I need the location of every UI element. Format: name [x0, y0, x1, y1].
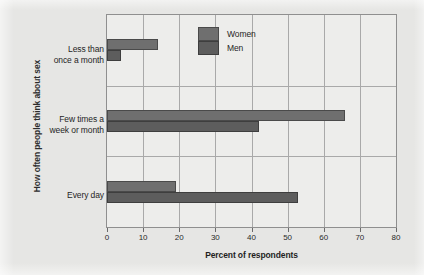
- bar-men-few-times-a-week-or-month: [107, 121, 259, 132]
- chart-figure: How often people think about sex Less th…: [0, 0, 424, 275]
- category-label-less-than-once-a-month: Less than once a month: [14, 44, 104, 65]
- legend-swatch-men-icon: [198, 41, 219, 55]
- category-label-line: once a month: [14, 55, 104, 66]
- bar-women-few-times-a-week-or-month: [107, 110, 345, 121]
- gridline-vertical: [324, 15, 325, 227]
- x-axis-tick-label: 10: [131, 233, 155, 242]
- category-label-few-times-a-week-or-month: Few times a week or month: [14, 114, 104, 135]
- legend: Women Men: [198, 26, 284, 60]
- category-label-every-day: Every day: [14, 190, 104, 201]
- gridline-vertical: [360, 15, 361, 227]
- x-axis-tick: [143, 228, 144, 232]
- bar-men-less-than-once-a-month: [107, 50, 121, 61]
- bar-men-every-day: [107, 192, 298, 203]
- x-axis-tick: [396, 228, 397, 232]
- category-label-line: Less than: [14, 44, 104, 55]
- x-axis-title: Percent of respondents: [106, 250, 397, 260]
- gridline-group-separator: [107, 86, 396, 87]
- legend-swatch-women-icon: [198, 27, 219, 41]
- x-axis-tick: [107, 228, 108, 232]
- y-axis-category-labels: Less than once a month Few times a week …: [12, 14, 104, 228]
- x-axis-tick-label: 20: [167, 233, 191, 242]
- bar-women-every-day: [107, 181, 176, 192]
- category-label-line: week or month: [14, 125, 104, 136]
- category-label-line: Few times a: [14, 114, 104, 125]
- legend-label-women: Women: [227, 29, 256, 39]
- bar-women-less-than-once-a-month: [107, 39, 158, 50]
- x-axis-tick-label: 50: [276, 233, 300, 242]
- legend-label-men: Men: [227, 43, 243, 53]
- x-axis-tick: [288, 228, 289, 232]
- category-label-line: Every day: [14, 190, 104, 201]
- legend-item-men: Men: [198, 40, 243, 56]
- x-axis-tick: [324, 228, 325, 232]
- gridline-group-separator: [107, 156, 396, 157]
- x-axis-tick-label: 40: [240, 233, 264, 242]
- x-axis-tick: [360, 228, 361, 232]
- x-axis-tick-label: 0: [95, 233, 119, 242]
- x-axis-tick: [215, 228, 216, 232]
- x-axis-tick-label: 80: [384, 233, 408, 242]
- x-axis: 01020304050607080: [106, 228, 397, 233]
- x-axis-tick-label: 70: [348, 233, 372, 242]
- x-axis-tick: [179, 228, 180, 232]
- x-axis-tick-label: 60: [312, 233, 336, 242]
- x-axis-tick: [252, 228, 253, 232]
- x-axis-tick-label: 30: [203, 233, 227, 242]
